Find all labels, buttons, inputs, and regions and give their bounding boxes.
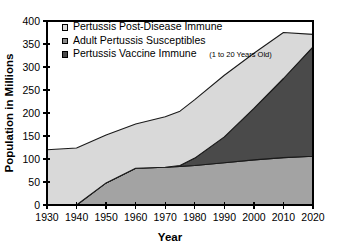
y-tick-label: 50 (28, 176, 40, 188)
x-tick-label: 2020 (301, 211, 325, 223)
stacked-area-chart: 050100150200250300350400 193019401950196… (0, 0, 338, 246)
x-tick-label: 1970 (154, 211, 178, 223)
x-tick-label: 2000 (242, 211, 266, 223)
y-tick-label: 100 (22, 153, 40, 165)
legend-item-note: (1 to 20 Years Old) (209, 50, 272, 59)
y-tick-label: 0 (34, 199, 40, 211)
legend-swatch-icon (62, 25, 68, 31)
legend-swatch-icon (62, 38, 68, 44)
y-tick-label: 350 (22, 38, 40, 50)
x-tick-label: 1940 (65, 211, 89, 223)
y-tick-label: 250 (22, 84, 40, 96)
y-axis-ticks: 050100150200250300350400 (22, 15, 50, 211)
legend-item-label: Adult Pertussis Susceptibles (73, 34, 205, 46)
y-tick-label: 300 (22, 61, 40, 73)
y-axis-title: Population in Millions (3, 54, 15, 173)
legend-item-label: Pertussis Vaccine Immune (73, 47, 197, 59)
y-tick-label: 400 (22, 15, 40, 27)
x-tick-label: 1980 (183, 211, 207, 223)
x-tick-label: 2010 (272, 211, 296, 223)
x-tick-label: 1990 (213, 211, 237, 223)
x-tick-label: 1950 (94, 211, 118, 223)
x-tick-label: 1960 (124, 211, 148, 223)
x-tick-label: 1930 (35, 211, 59, 223)
chart-legend: Pertussis Post-Disease ImmuneAdult Pertu… (62, 20, 272, 59)
chart-canvas: 050100150200250300350400 193019401950196… (0, 0, 338, 246)
legend-swatch-icon (62, 52, 68, 58)
x-axis-title: Year (158, 231, 183, 243)
y-tick-label: 150 (22, 130, 40, 142)
legend-item-label: Pertussis Post-Disease Immune (73, 20, 223, 32)
y-tick-label: 200 (22, 107, 40, 119)
